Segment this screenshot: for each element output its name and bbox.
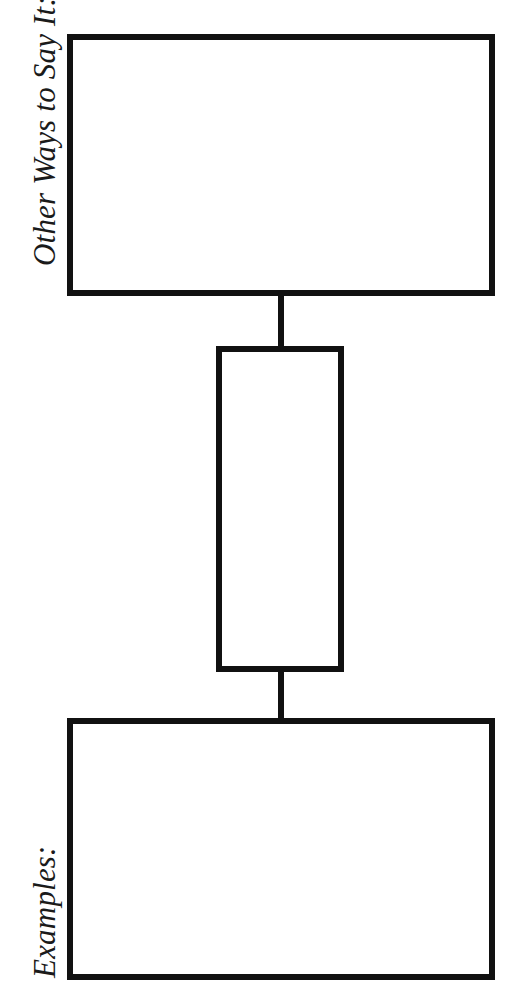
other-ways-to-say-it-box[interactable] bbox=[67, 34, 495, 296]
examples-box[interactable] bbox=[67, 718, 495, 980]
other-ways-label: Other Ways to Say It: bbox=[27, 0, 63, 266]
connector-line-top bbox=[278, 294, 284, 348]
connector-line-bottom bbox=[278, 670, 284, 720]
examples-label: Examples: bbox=[27, 845, 63, 978]
center-term-box[interactable] bbox=[216, 346, 344, 672]
